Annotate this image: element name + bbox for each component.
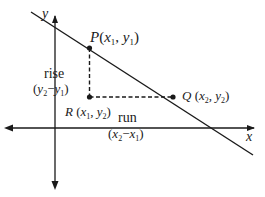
point-r-label: R (x1, y2)	[64, 104, 111, 121]
y-axis-bottom-arrow-icon	[52, 181, 59, 190]
slope-diagram: y x P(x1, y1) Q (x2, y2) R (x1, y2) rise…	[0, 0, 265, 197]
point-r	[87, 94, 92, 99]
diagram-canvas: y x P(x1, y1) Q (x2, y2) R (x1, y2) rise…	[0, 0, 265, 197]
rise-expression: (y2−y1)	[33, 81, 69, 98]
y-axis-label: y	[40, 6, 49, 21]
point-p	[87, 45, 92, 50]
point-q	[170, 94, 175, 99]
x-axis-label: x	[245, 129, 253, 144]
rise-label: rise	[44, 66, 64, 81]
run-label: run	[118, 110, 137, 125]
x-axis-left-arrow-icon	[4, 125, 13, 132]
point-p-label: P(x1, y1)	[89, 29, 139, 47]
point-q-label: Q (x2, y2)	[182, 88, 229, 105]
